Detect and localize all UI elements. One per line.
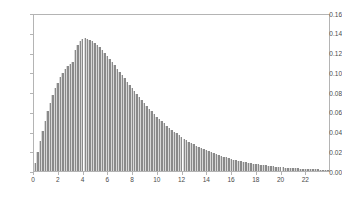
histogram-chart: 0.000.020.040.060.080.100.120.140.160246… [0, 0, 342, 200]
x-axis-tick-label: 18 [246, 176, 266, 183]
x-axis-tick-label: 10 [147, 176, 167, 183]
x-axis-tickmark [58, 172, 59, 175]
y-axis-tick-label: 0.02 [314, 149, 342, 156]
x-axis-tickmark [231, 172, 232, 175]
y-axis-tick-label: 0.00 [314, 169, 342, 176]
y-axis-tickmark [30, 14, 33, 15]
histogram-bars [34, 15, 329, 171]
x-axis-tick-label: 12 [172, 176, 192, 183]
x-axis-tick-label: 6 [97, 176, 117, 183]
x-axis-tickmark [256, 172, 257, 175]
x-axis-tickmark [83, 172, 84, 175]
x-axis-tick-label: 4 [73, 176, 93, 183]
x-axis-tickmark [281, 172, 282, 175]
x-axis-tickmark [182, 172, 183, 175]
x-axis-tickmark [33, 172, 34, 175]
plot-area [33, 14, 330, 172]
x-axis-tickmark [305, 172, 306, 175]
y-axis-tickmark [30, 113, 33, 114]
x-axis-tick-label: 20 [271, 176, 291, 183]
x-axis-tick-label: 16 [221, 176, 241, 183]
x-axis-tick-label: 2 [48, 176, 68, 183]
y-axis-tickmark [30, 93, 33, 94]
x-axis-tick-label: 0 [23, 176, 43, 183]
y-axis-tickmark [30, 133, 33, 134]
y-axis-tick-label: 0.14 [314, 30, 342, 37]
y-axis-tick-label: 0.06 [314, 109, 342, 116]
y-axis-tick-label: 0.16 [314, 11, 342, 18]
y-axis-tick-label: 0.10 [314, 70, 342, 77]
y-axis-tickmark [30, 34, 33, 35]
x-axis-tick-label: 14 [196, 176, 216, 183]
x-axis-tickmark [206, 172, 207, 175]
x-axis-tickmark [107, 172, 108, 175]
x-axis-tickmark [132, 172, 133, 175]
x-axis-tick-label: 22 [295, 176, 315, 183]
x-axis-tick-label: 8 [122, 176, 142, 183]
y-axis-tick-label: 0.04 [314, 129, 342, 136]
y-axis-tickmark [30, 54, 33, 55]
y-axis-tickmark [30, 152, 33, 153]
x-axis-tickmark [157, 172, 158, 175]
y-axis-tickmark [30, 73, 33, 74]
y-axis-tick-label: 0.12 [314, 50, 342, 57]
y-axis-tick-label: 0.08 [314, 90, 342, 97]
